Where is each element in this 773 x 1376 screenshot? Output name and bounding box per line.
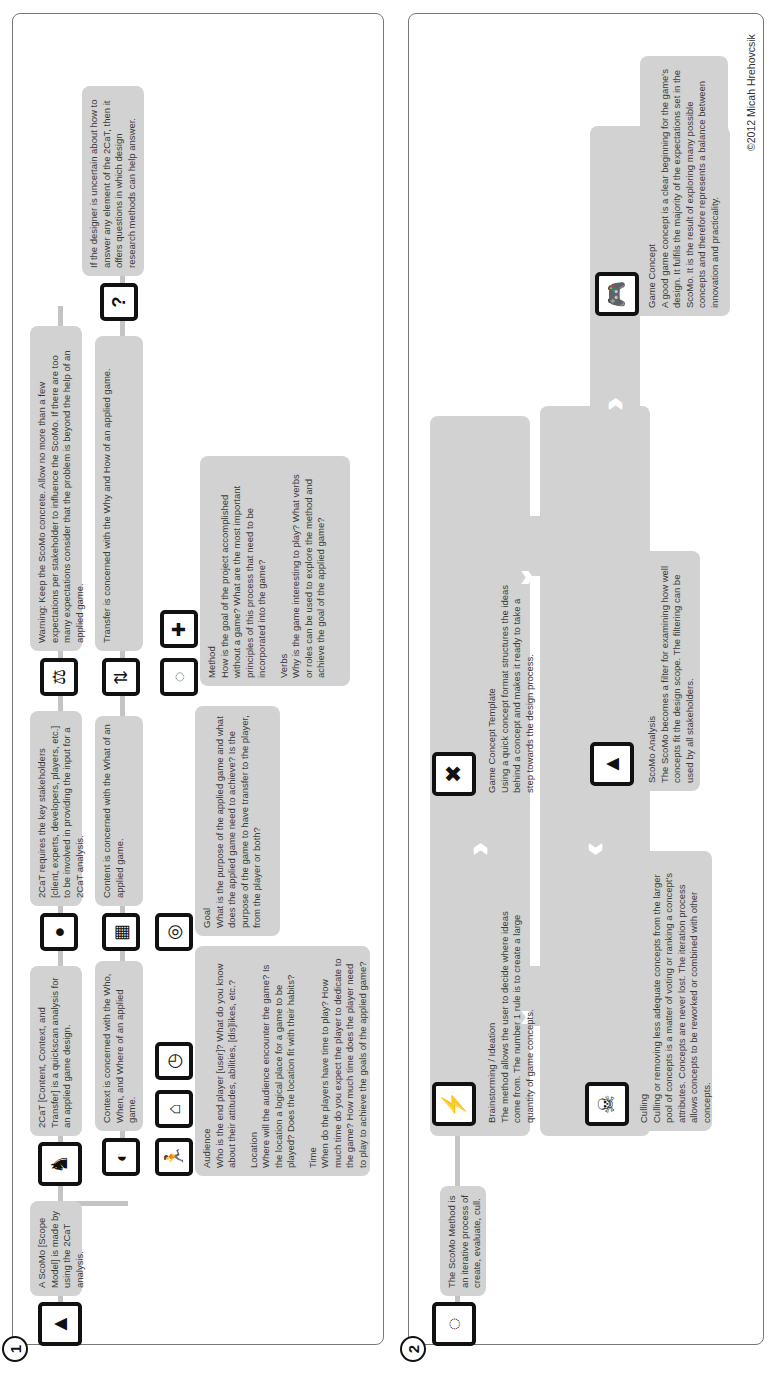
tools-icon: ✖ xyxy=(432,752,476,796)
head-icon: ● xyxy=(40,913,78,951)
arrow-chevrons: ››› xyxy=(595,407,629,411)
poster: ▲ 1 A ScoMo [Scope Model] is made by usi… xyxy=(0,0,773,1376)
cycle-icon: ◌ xyxy=(160,658,198,696)
arrow-chevrons: ‹‹‹ xyxy=(575,852,609,856)
step-culling: CullingCulling or removing less adequate… xyxy=(632,851,712,1131)
context-box: Context is concerned with the Who, When,… xyxy=(95,961,143,1131)
triforce-icon: ▲ xyxy=(590,742,634,786)
step-brainstorming: Brainstorming / IdeationThe method allow… xyxy=(480,901,530,1131)
section-number-1: 1 xyxy=(2,1336,28,1362)
target-icon: ◎ xyxy=(155,913,193,951)
stakeholders-icon: ♞ xyxy=(38,1142,82,1186)
question-icon: ? xyxy=(100,283,138,321)
transfer-box: Transfer is concerned with the Why and H… xyxy=(95,336,143,651)
method-intro-box: The ScoMo Method is an iterative process… xyxy=(440,1186,486,1296)
content-box: Content is concerned with the What of an… xyxy=(95,716,143,906)
triforce-icon: ▲ xyxy=(38,1302,82,1346)
running-man-icon: 🏃 xyxy=(155,1138,193,1176)
step-game-concept: Game ConceptA good game concept is a cle… xyxy=(640,56,728,316)
copyright: ©2012 Micah Hrehovcsik xyxy=(745,34,757,151)
gamepad-icon: 🎮 xyxy=(595,272,639,316)
globe-icon: ◐ xyxy=(102,1138,140,1176)
chip-icon: ▦ xyxy=(102,913,140,951)
skull-bones-icon: ☠ xyxy=(585,1082,629,1126)
clock-icon: ◷ xyxy=(155,1042,193,1080)
section-number-2: 2 xyxy=(400,1336,426,1362)
scale-icon: ⚖ xyxy=(40,658,78,696)
cycle-arrows-icon: ◌ xyxy=(432,1302,476,1346)
house-icon: ⌂ xyxy=(155,1090,193,1128)
context-details-box: AudienceWho is the end player [user]? Wh… xyxy=(195,946,370,1176)
uncertain-box: If the designer is uncertain about how t… xyxy=(82,86,144,276)
stakeholders-box: 2CaT requires the key stakeholders [clie… xyxy=(30,711,82,906)
warning-box: Warning: Keep the ScoMo concrete. Allow … xyxy=(30,326,82,651)
twocat-box: 2CaT [Content, Context, and Transfer] is… xyxy=(30,966,82,1136)
step-scomo-analysis: ScoMo AnalysisThe ScoMo becomes a filter… xyxy=(640,551,700,791)
transfer-details-box: MethodHow is the goal of the project acc… xyxy=(200,456,350,686)
intro-box: A ScoMo [Scope Model] is made by using t… xyxy=(30,1201,82,1296)
flow-band xyxy=(500,516,580,576)
transfer-arrows-icon: ⇅ xyxy=(102,658,140,696)
puzzle-icon: ✚ xyxy=(160,610,198,648)
content-details-box: GoalWhat is the purpose of the applied g… xyxy=(195,706,280,936)
arrow-chevrons: ››› xyxy=(460,852,494,856)
step-template: Game Concept TemplateUsing a quick conce… xyxy=(480,571,530,801)
brain-lightning-icon: ⚡ xyxy=(432,1082,476,1126)
